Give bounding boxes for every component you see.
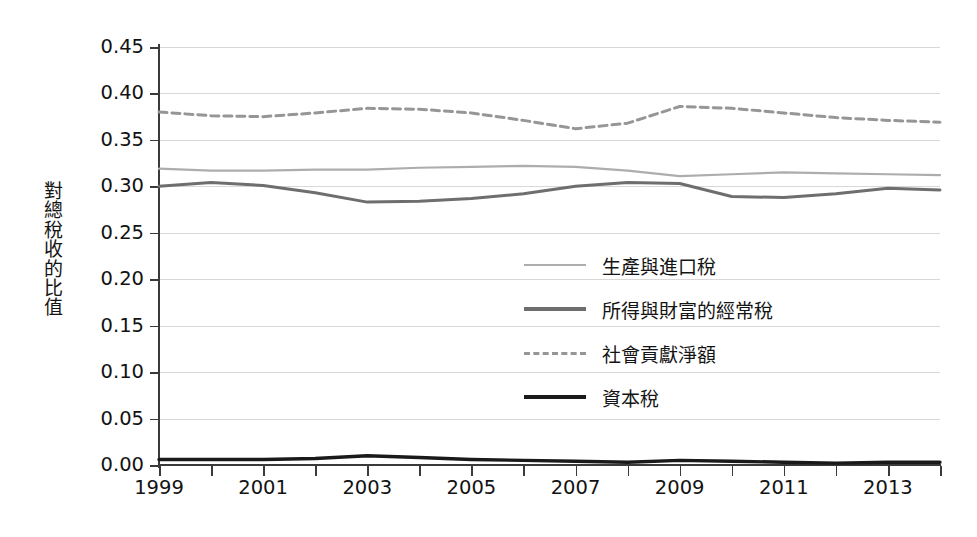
chart-container: 對總稅收的比值 0.000.050.100.150.200.250.300.35… (0, 0, 977, 537)
data-series-line (159, 456, 940, 463)
legend-swatch-icon (524, 346, 586, 360)
legend-item[interactable]: 所得與財富的經常稅 (524, 287, 854, 331)
data-series-line (159, 166, 940, 176)
legend-swatch-icon (524, 258, 586, 272)
legend-item[interactable]: 社會貢獻淨額 (524, 331, 854, 375)
legend: 生產與進口稅所得與財富的經常稅社會貢獻淨額資本稅 (524, 243, 854, 419)
data-series-line (159, 183, 940, 203)
legend-item[interactable]: 生產與進口稅 (524, 243, 854, 287)
data-series-line (159, 106, 940, 128)
legend-label: 社會貢獻淨額 (586, 340, 716, 367)
legend-item[interactable]: 資本稅 (524, 375, 854, 419)
legend-label: 生產與進口稅 (586, 252, 716, 279)
legend-label: 資本稅 (586, 384, 659, 411)
legend-label: 所得與財富的經常稅 (586, 296, 773, 323)
legend-swatch-icon (524, 302, 586, 316)
legend-swatch-icon (524, 390, 586, 404)
